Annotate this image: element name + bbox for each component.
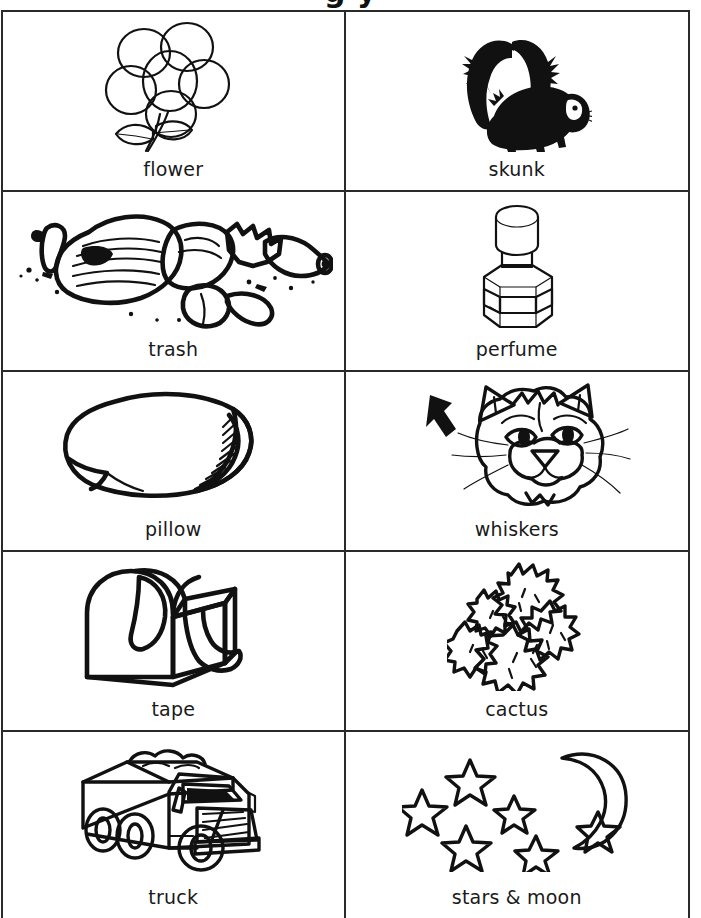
pillow-art	[3, 372, 344, 520]
tape-drawing	[73, 563, 273, 689]
cell-stars-moon[interactable]: stars & moon	[346, 732, 689, 918]
skunk-drawing	[442, 20, 592, 152]
table-row: trash	[3, 192, 688, 372]
cell-label-flower: flower	[143, 160, 203, 190]
cell-tape[interactable]: tape	[3, 552, 346, 730]
perfume-drawing	[454, 201, 580, 331]
cactus-art	[346, 552, 689, 700]
flower-art	[3, 12, 344, 160]
stars-moon-drawing	[402, 748, 632, 872]
trash-drawing	[13, 202, 333, 330]
stars-moon-art	[346, 732, 689, 888]
cell-pillow[interactable]: pillow	[3, 372, 346, 550]
cell-truck[interactable]: truck	[3, 732, 346, 918]
pillow-drawing	[53, 387, 293, 505]
cell-flower[interactable]: flower	[3, 12, 346, 190]
cell-label-truck: truck	[148, 888, 198, 918]
cell-trash[interactable]: trash	[3, 192, 346, 370]
cell-whiskers[interactable]: whiskers	[346, 372, 689, 550]
cell-label-stars-moon: stars & moon	[452, 888, 582, 918]
flower-drawing	[98, 20, 248, 152]
table-row: flower	[3, 12, 688, 192]
truck-drawing	[73, 748, 273, 872]
cell-cactus[interactable]: cactus	[346, 552, 689, 730]
table-row: truck	[3, 732, 688, 918]
page-title: g y	[0, 0, 701, 9]
truck-art	[3, 732, 344, 888]
table-row: tape	[3, 552, 688, 732]
cat-whiskers-drawing	[402, 381, 632, 511]
cell-skunk[interactable]: skunk	[346, 12, 689, 190]
tape-art	[3, 552, 344, 700]
cell-label-skunk: skunk	[489, 160, 545, 190]
cell-label-trash: trash	[148, 340, 198, 370]
cell-label-cactus: cactus	[485, 700, 548, 730]
cell-label-tape: tape	[151, 700, 195, 730]
perfume-art	[346, 192, 689, 340]
trash-art	[3, 192, 344, 340]
cat-whiskers-art	[346, 372, 689, 520]
cell-label-perfume: perfume	[476, 340, 558, 370]
skunk-art	[346, 12, 689, 160]
picture-vocabulary-table: flower	[1, 10, 690, 918]
table-row: pillow	[3, 372, 688, 552]
cell-label-pillow: pillow	[145, 520, 201, 550]
cactus-drawing	[447, 561, 587, 691]
cell-label-whiskers: whiskers	[475, 520, 559, 550]
cell-perfume[interactable]: perfume	[346, 192, 689, 370]
